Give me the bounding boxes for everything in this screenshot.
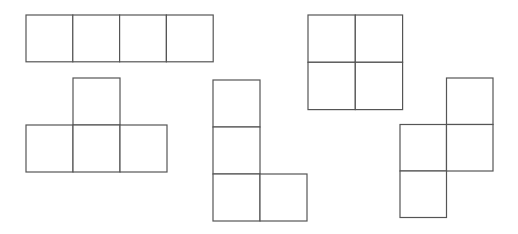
tetromino-t xyxy=(26,78,167,172)
tetromino-t-cell-4 xyxy=(120,125,167,172)
tetromino-i-cell-3 xyxy=(120,15,167,62)
tetromino-i xyxy=(26,15,213,62)
tetromino-t-cell-1 xyxy=(73,78,120,125)
tetromino-s-cell-2 xyxy=(400,125,447,172)
tetromino-o-cell-1 xyxy=(308,15,355,62)
tetromino-o-cell-4 xyxy=(355,62,402,109)
tetromino-t-cell-3 xyxy=(73,125,120,172)
tetromino-diagram xyxy=(0,0,518,234)
tetromino-l-cell-2 xyxy=(213,127,260,174)
tetromino-l-cell-1 xyxy=(213,80,260,127)
tetromino-t-cell-2 xyxy=(26,125,73,172)
tetromino-o-cell-2 xyxy=(355,15,402,62)
tetromino-i-cell-4 xyxy=(166,15,213,62)
tetromino-o xyxy=(308,15,403,110)
tetromino-s xyxy=(400,78,493,218)
tetromino-l-cell-3 xyxy=(213,174,260,221)
tetromino-i-cell-2 xyxy=(73,15,120,62)
tetromino-i-cell-1 xyxy=(26,15,73,62)
tetromino-s-cell-1 xyxy=(447,78,494,125)
tetromino-l xyxy=(213,80,307,221)
tetromino-l-cell-4 xyxy=(260,174,307,221)
tetromino-o-cell-3 xyxy=(308,62,355,109)
tetromino-s-cell-3 xyxy=(447,125,494,172)
tetromino-s-cell-4 xyxy=(400,171,447,218)
